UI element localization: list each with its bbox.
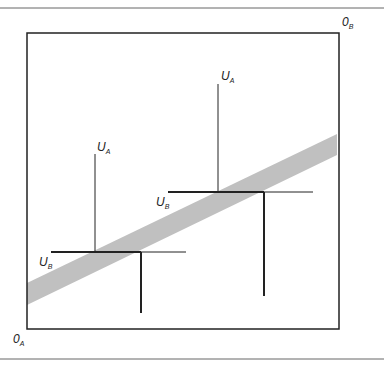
upper-ua-main: U	[221, 69, 230, 83]
origin-b-label: 0B	[342, 16, 353, 30]
lower-ua-label: UA	[97, 141, 110, 155]
origin-b-main: 0	[342, 15, 349, 29]
edgeworth-box	[27, 33, 339, 329]
contract-curve-band	[27, 134, 337, 305]
upper-ua-label: UA	[221, 70, 234, 84]
lower-ua-main: U	[97, 140, 106, 154]
origin-b-sub: B	[349, 23, 354, 30]
lower-ua-sub: A	[106, 148, 111, 155]
upper-ub-main: U	[156, 195, 165, 209]
origin-a-label: 0A	[13, 333, 24, 347]
lower-ub-main: U	[39, 255, 48, 269]
upper-ua-sub: A	[230, 77, 235, 84]
upper-ub-label: UB	[156, 196, 169, 210]
origin-a-sub: A	[20, 340, 25, 347]
lower-ub-label: UB	[39, 256, 52, 270]
upper-ub-sub: B	[165, 203, 170, 210]
diagram-canvas	[0, 0, 384, 368]
origin-a-main: 0	[13, 332, 20, 346]
edgeworth-box-diagram: 0B 0A UA UB UA UB	[0, 0, 384, 368]
lower-ub-sub: B	[48, 263, 53, 270]
